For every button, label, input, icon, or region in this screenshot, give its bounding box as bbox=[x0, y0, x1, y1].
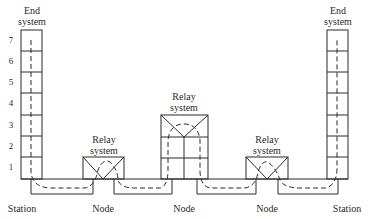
label-line: End bbox=[16, 5, 48, 16]
physical-links bbox=[21, 179, 348, 194]
layer-number-2: 2 bbox=[6, 141, 16, 151]
label-line: Relay bbox=[84, 134, 124, 145]
label-line: system bbox=[164, 102, 204, 113]
layer-number-6: 6 bbox=[6, 56, 16, 66]
relay-system-3 bbox=[246, 157, 288, 179]
label-line: Relay bbox=[164, 91, 204, 102]
layer-number-4: 4 bbox=[6, 98, 16, 108]
relay-3-label: Relay system bbox=[247, 134, 287, 156]
label-line: End bbox=[320, 5, 356, 16]
layer-number-1: 1 bbox=[6, 162, 16, 172]
layer-number-7: 7 bbox=[6, 35, 16, 45]
layer-number-5: 5 bbox=[6, 77, 16, 87]
label-line: Relay bbox=[247, 134, 287, 145]
end-system-right-label: End system bbox=[320, 5, 356, 27]
label-line: system bbox=[320, 16, 356, 27]
station-left-label: Station bbox=[2, 203, 42, 214]
relay-2-label: Relay system bbox=[164, 91, 204, 113]
layer-number-3: 3 bbox=[6, 120, 16, 130]
node-2-label: Node bbox=[166, 203, 202, 214]
label-line: system bbox=[16, 16, 48, 27]
label-line: system bbox=[247, 145, 287, 156]
node-1-label: Node bbox=[85, 203, 121, 214]
station-right-label: Station bbox=[327, 203, 367, 214]
node-3-label: Node bbox=[249, 203, 285, 214]
label-line: system bbox=[84, 145, 124, 156]
end-system-left-label: End system bbox=[16, 5, 48, 27]
relay-1-label: Relay system bbox=[84, 134, 124, 156]
